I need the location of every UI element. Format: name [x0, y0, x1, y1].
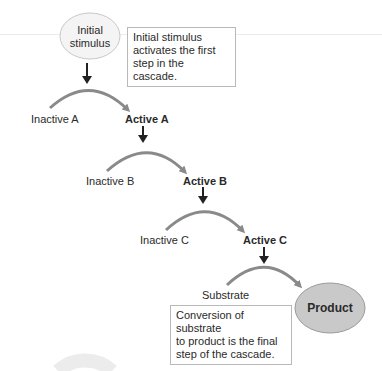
down-arrow-icon — [138, 126, 148, 143]
initial-stimulus-line2: stimulus — [60, 37, 120, 50]
end-note: Conversion of substrate to product is th… — [170, 305, 292, 365]
end-note-line1: Conversion of substrate — [176, 309, 286, 335]
initial-stimulus-line1: Initial — [60, 24, 120, 37]
watermark-arc — [58, 361, 112, 371]
active-a-label: Active A — [125, 113, 169, 125]
inactive-b-label: Inactive B — [86, 175, 134, 187]
start-note-line2: activates the first — [133, 44, 230, 57]
activation-arc-a — [50, 90, 128, 110]
start-note: Initial stimulus activates the first ste… — [127, 27, 236, 87]
active-c-label: Active C — [243, 234, 287, 246]
initial-stimulus-label: Initial stimulus — [60, 24, 120, 50]
start-note-line1: Initial stimulus — [133, 31, 230, 44]
activation-arc-b — [107, 153, 185, 172]
substrate-label: Substrate — [202, 289, 249, 301]
active-b-label: Active B — [183, 175, 227, 187]
product-label: Product — [302, 301, 358, 315]
down-arrow-icon — [82, 63, 92, 84]
down-arrow-icon — [198, 187, 208, 204]
inactive-a-label: Inactive A — [31, 113, 79, 125]
end-note-line3: step of the cascade. — [176, 348, 286, 361]
down-arrow-icon — [259, 247, 269, 264]
inactive-c-label: Inactive C — [140, 234, 189, 246]
activation-arc-c — [166, 212, 243, 231]
start-note-line3: step in the cascade. — [133, 57, 230, 83]
conversion-arc — [227, 267, 300, 286]
end-note-line2: to product is the final — [176, 335, 286, 348]
